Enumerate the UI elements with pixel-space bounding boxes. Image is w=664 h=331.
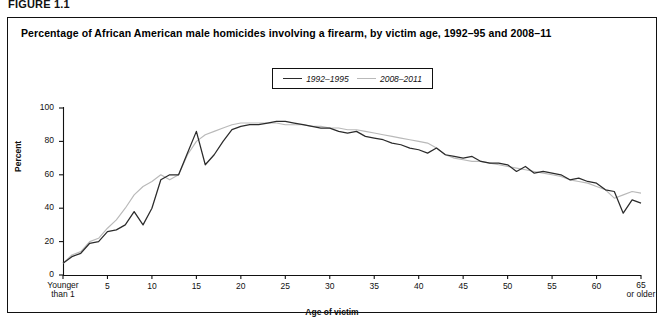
y-tick-label-100: 100 <box>32 102 54 112</box>
x-tick-label-15: 15 <box>174 281 218 291</box>
x-tick-label-0: Youngerthan 1 <box>41 281 85 299</box>
x-tick-label-5: 5 <box>85 281 129 291</box>
x-tick-label-25: 25 <box>263 281 307 291</box>
x-tick-label-45: 45 <box>441 281 485 291</box>
y-tick-label-40: 40 <box>32 202 54 212</box>
line-series-2008-2011 <box>63 123 641 263</box>
y-tick-label-20: 20 <box>32 236 54 246</box>
x-tick-label-50: 50 <box>486 281 530 291</box>
data-series <box>63 121 641 263</box>
x-tick-label-10: 10 <box>130 281 174 291</box>
y-axis-title: Percent <box>13 141 23 172</box>
x-tick-label-55: 55 <box>530 281 574 291</box>
x-axis-title: Age of victim <box>0 307 664 317</box>
x-tick-label-65: 65or older <box>619 281 663 299</box>
x-tick-label-35: 35 <box>352 281 396 291</box>
x-tick-label-60: 60 <box>575 281 619 291</box>
plot-area: 020406080100 Youngerthan 151015202530354… <box>0 0 664 331</box>
line-series-1992-1995 <box>63 121 641 263</box>
x-tick-label-40: 40 <box>397 281 441 291</box>
y-tick-label-80: 80 <box>32 135 54 145</box>
y-tick-label-60: 60 <box>32 169 54 179</box>
y-tick-label-0: 0 <box>32 269 54 279</box>
x-tick-label-30: 30 <box>308 281 352 291</box>
x-tick-label-20: 20 <box>219 281 263 291</box>
